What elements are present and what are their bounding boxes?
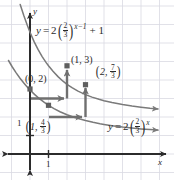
equation-upper: y=2(23)x−1+ 1 — [36, 22, 104, 40]
point-markers — [27, 63, 88, 108]
equation-upper-plus: + 1 — [90, 24, 104, 36]
y-axis-label: y — [33, 7, 37, 16]
right-paren-icon: ) — [69, 22, 73, 40]
equation-lower-lhs: y — [108, 120, 113, 132]
marker-point-1-4over3 — [46, 103, 51, 108]
equation-lower: y=2(23)x — [108, 118, 150, 136]
left-paren-icon: ( — [58, 22, 62, 40]
point-label-1-4over3: (1, 43) — [25, 119, 51, 136]
right-paren-icon: ) — [141, 118, 145, 136]
x-tick-label-1: 1 — [46, 160, 51, 169]
right-paren-icon: ) — [46, 119, 50, 134]
marker-point-2-7over3 — [83, 82, 88, 87]
marker-point-0-2 — [27, 86, 32, 91]
left-paren-icon: ( — [130, 118, 134, 136]
equation-upper-base: 23 — [63, 22, 69, 39]
equation-lower-coef: 2 — [123, 120, 129, 132]
equation-lower-exponent: x — [146, 118, 149, 127]
right-paren-icon: ) — [116, 64, 120, 79]
x-axis-label: x — [158, 158, 162, 167]
equation-upper-coef: 2 — [51, 24, 57, 36]
point-label-2-7over3-y: 73 — [110, 64, 116, 81]
point-label-2-7over3: (2, 73) — [95, 64, 121, 81]
marker-point-1-3 — [64, 63, 69, 68]
point-label-0-2: (0, 2) — [25, 74, 47, 84]
left-paren-icon: ( — [96, 64, 100, 79]
point-label-1-3: (1, 3) — [71, 55, 93, 65]
equation-upper-eq: = — [43, 24, 49, 36]
exponential-translation-figure: y x 1 1 y=2(23)x−1+ 1 y=2(23)x (0, 2) (1… — [0, 0, 174, 180]
equation-lower-eq: = — [115, 120, 121, 132]
point-label-1-4over3-y: 43 — [40, 119, 46, 136]
equation-upper-lhs: y — [36, 24, 41, 36]
left-paren-icon: ( — [26, 119, 30, 134]
equation-lower-base: 23 — [135, 118, 141, 135]
equation-upper-exponent: x−1 — [74, 22, 86, 31]
y-tick-label-1: 1 — [17, 119, 22, 128]
